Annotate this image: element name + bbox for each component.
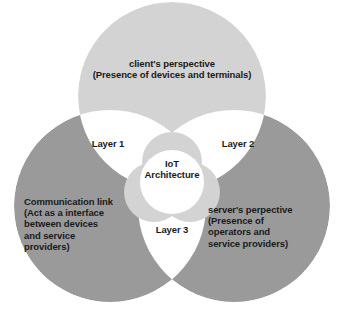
circle-label-server: server's perpective (Presence of operato… [208,204,328,249]
intersection-label-layer-2: Layer 2 [208,138,268,149]
iot-architecture-venn-diagram: client's perspective (Presence of device… [0,0,344,320]
intersection-label-layer-1: Layer 1 [78,138,138,149]
center-label-iot-architecture: IoT Architecture [134,158,210,180]
circle-label-communication: Communication link (Act as a interface b… [24,196,140,252]
intersection-label-layer-3: Layer 3 [142,224,202,235]
circle-label-client: client's perspective (Presence of device… [60,58,284,80]
